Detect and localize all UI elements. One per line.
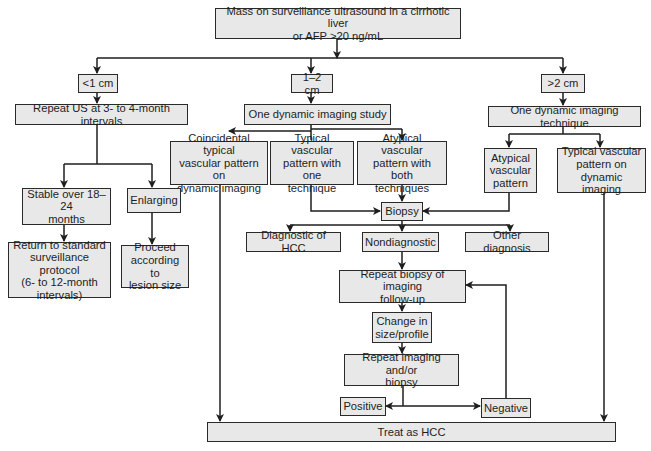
node-nondiagnostic: Nondiagnostic — [362, 232, 439, 252]
node-return-surveillance: Return to standard surveillance protocol… — [8, 242, 111, 298]
node-enlarging: Enlarging — [127, 188, 181, 213]
node-biopsy: Biopsy — [381, 202, 423, 221]
node-diagnostic-hcc: Diagnostic of HCC — [246, 232, 341, 252]
node-repeat-imaging: Repeat imaging and/or biopsy — [344, 354, 459, 386]
flowchart: Mass on surveillance ultrasound in a cir… — [0, 0, 651, 451]
node-repeat-us: Repeat US at 3- to 4-month intervals — [15, 104, 188, 125]
node-start: Mass on surveillance ultrasound in a cir… — [215, 8, 461, 39]
node-negative: Negative — [481, 398, 531, 418]
node-atypical-pattern: Atypical vascular pattern — [484, 148, 537, 193]
node-1to2cm: 1–2 cm — [291, 74, 333, 93]
node-stable: Stable over 18–24 months — [22, 188, 111, 225]
node-one-dynamic-study: One dynamic imaging study — [244, 104, 391, 125]
node-positive: Positive — [340, 397, 386, 416]
node-typical-dynamic: Typical vascular pattern on dynamic imag… — [557, 148, 646, 193]
node-coincidental: Coincidental typical vascular pattern on… — [170, 141, 268, 185]
node-other-diagnosis: Other diagnosis — [465, 232, 549, 252]
node-gt2cm: >2 cm — [541, 74, 585, 93]
node-treat-hcc: Treat as HCC — [207, 422, 616, 442]
node-change-size: Change in size/profile — [372, 312, 432, 343]
node-one-dynamic-technique: One dynamic imaging technique — [488, 106, 641, 127]
node-repeat-biopsy: Repeat biopsy of imaging follow-up — [339, 270, 466, 303]
node-lt1cm: <1 cm — [78, 74, 118, 93]
node-typical-one-technique: Typical vascular pattern with one techni… — [270, 141, 354, 185]
node-proceed: Proceed according to lesion size — [121, 245, 189, 288]
connector-lines — [0, 0, 651, 451]
node-atypical-both-techniques: Atypical vascular pattern with both tech… — [357, 141, 447, 185]
